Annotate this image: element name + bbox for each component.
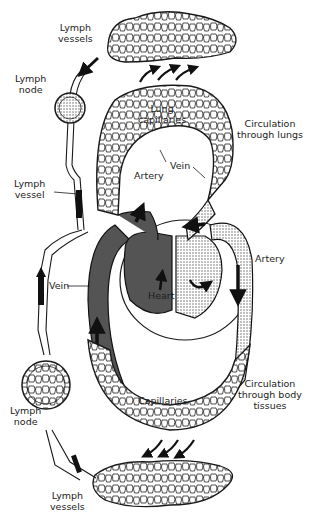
label-vein-left: Vein — [49, 280, 69, 291]
label-line: capillaries — [138, 114, 186, 125]
label-lymph-node-top: Lymph node — [15, 73, 46, 95]
flow-arrows-body — [146, 440, 194, 456]
label-line: vessels — [50, 501, 85, 512]
label-circulation-body: Circulation through body tissues — [238, 378, 302, 411]
label-line: Lymph — [14, 178, 45, 189]
label-line: Lymph — [10, 405, 41, 416]
label-lymph-vessels-bottom: Lymph vessels — [50, 490, 85, 512]
label-line: Lymph — [50, 490, 85, 501]
lymph-capillary-bed-top — [108, 12, 236, 62]
circulation-diagram — [0, 0, 317, 532]
label-heart: Heart — [148, 290, 174, 301]
lymph-vessel-lower — [38, 230, 96, 480]
label-line: Lymph — [58, 22, 93, 33]
flow-arrows-lung — [140, 67, 194, 82]
label-line: through body — [238, 389, 302, 400]
label-line: vessel — [14, 189, 45, 200]
label-line: through lungs — [237, 129, 303, 140]
lymph-node-top — [55, 93, 85, 123]
label-line: Circulation — [238, 378, 302, 389]
lymph-arrow-top — [83, 58, 98, 72]
label-line: Circulation — [237, 118, 303, 129]
label-line: node — [15, 84, 46, 95]
lymph-node-bottom — [22, 361, 70, 409]
label-lymph-vessel-mid: Lymph vessel — [14, 178, 45, 200]
label-line: node — [10, 416, 41, 427]
lymph-capillary-bed-bottom — [93, 461, 233, 507]
label-vein-upper: Vein — [170, 160, 190, 171]
label-circulation-lungs: Circulation through lungs — [237, 118, 303, 140]
label-artery-right: Artery — [255, 253, 285, 264]
label-line: Lung — [138, 103, 186, 114]
label-line: tissues — [238, 400, 302, 411]
label-capillaries: Capillaries — [138, 395, 188, 406]
label-lymph-vessels-top: Lymph vessels — [58, 22, 93, 44]
label-lung-capillaries: Lung capillaries — [138, 103, 186, 125]
label-artery-upper: Artery — [134, 170, 164, 181]
label-line: Lymph — [15, 73, 46, 84]
label-line: vessels — [58, 33, 93, 44]
label-lymph-node-bottom: Lymph node — [10, 405, 41, 427]
